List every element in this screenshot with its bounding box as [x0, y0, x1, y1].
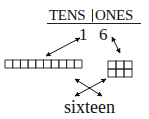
unit-square	[124, 61, 132, 69]
unit-square	[108, 69, 116, 77]
unit-square	[124, 69, 132, 77]
ones-digit-to-units-arrow	[112, 37, 120, 53]
rod-unit-square	[51, 60, 59, 68]
ten-rod	[5, 60, 82, 68]
rod-unit-square	[20, 60, 28, 68]
rod-unit-square	[44, 60, 52, 68]
unit-square	[116, 69, 124, 77]
number-word: sixteen	[64, 98, 115, 116]
rod-unit-square	[36, 60, 44, 68]
rod-unit-square	[67, 60, 75, 68]
rod-unit-square	[74, 60, 82, 68]
rod-unit-square	[5, 60, 13, 68]
rod-unit-square	[28, 60, 36, 68]
rod-unit-square	[13, 60, 21, 68]
unit-square	[108, 61, 116, 69]
tens-digit-to-rod-arrow	[46, 38, 80, 56]
ones-units-block	[108, 61, 132, 77]
rod-unit-square	[59, 60, 67, 68]
unit-square	[116, 61, 124, 69]
